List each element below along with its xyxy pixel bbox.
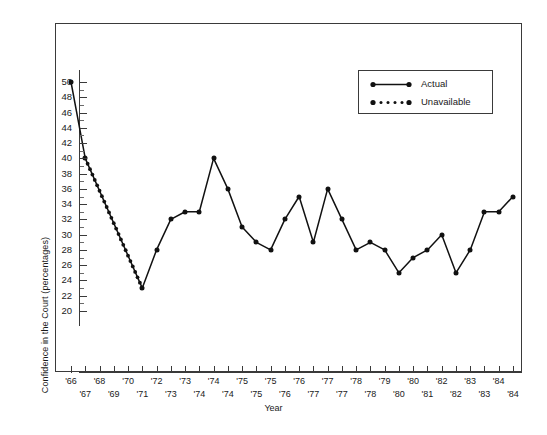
y-axis-tick	[80, 97, 87, 98]
x-axis-tick-label: '84	[493, 377, 505, 386]
x-axis-tick-label: '74	[193, 390, 205, 399]
data-point	[411, 255, 416, 260]
x-axis-tick-label: '81	[422, 390, 434, 399]
data-point	[240, 225, 245, 230]
x-axis-tick-label: '80	[407, 377, 419, 386]
data-point	[453, 270, 458, 275]
data-point	[339, 217, 344, 222]
legend-item-actual: Actual	[359, 76, 494, 92]
x-axis-tick-label: '71	[136, 390, 148, 399]
legend-item-unavailable: Unavailable	[359, 94, 494, 110]
x-axis-tick-label: '66	[65, 377, 77, 386]
y-axis-tick-label: 20	[50, 306, 72, 316]
x-axis-tick	[71, 366, 72, 373]
x-axis-tick-label: '76	[279, 390, 291, 399]
y-axis-tick-label: 40	[50, 153, 72, 163]
x-axis-tick	[242, 366, 243, 373]
data-point	[425, 247, 430, 252]
data-point	[325, 186, 330, 191]
x-axis-tick-label: '82	[450, 390, 462, 399]
x-axis-tick-label: '70	[122, 377, 134, 386]
y-axis-tick	[80, 204, 87, 205]
x-axis-tick	[342, 366, 343, 373]
y-axis-tick	[80, 113, 87, 114]
x-axis-tick	[199, 366, 200, 373]
y-axis-tick	[80, 250, 87, 251]
x-axis-tick	[356, 366, 357, 373]
x-axis-tick-label: '78	[365, 390, 377, 399]
x-axis-tick	[328, 366, 329, 373]
data-point	[282, 217, 287, 222]
x-axis-tick	[171, 366, 172, 373]
y-axis-minor-tick	[80, 120, 84, 121]
data-point	[197, 209, 202, 214]
x-axis-tick-label: '77	[308, 390, 320, 399]
x-axis-tick-label: '73	[179, 377, 191, 386]
x-axis-tick	[513, 366, 514, 373]
x-axis-tick	[228, 366, 229, 373]
x-axis-tick	[470, 366, 471, 373]
y-axis-tick-label: 22	[50, 291, 72, 301]
x-axis-tick	[299, 366, 300, 373]
data-point	[225, 186, 230, 191]
legend-swatch-solid-icon	[369, 81, 413, 88]
x-axis-tick	[313, 366, 314, 373]
x-axis-tick-label: '75	[265, 377, 277, 386]
x-axis-tick	[399, 366, 400, 373]
y-axis-minor-tick	[80, 90, 84, 91]
y-axis-tick-label: 44	[50, 123, 72, 133]
x-axis-tick-label: '82	[436, 377, 448, 386]
y-axis-title-wrapper: Confidence in the Court (percentages)	[22, 110, 36, 320]
x-axis-title: Year	[0, 403, 547, 413]
chart-figure: 50484644424038363432302826242220 Confide…	[0, 0, 547, 435]
y-axis-minor-tick	[80, 181, 84, 182]
x-axis-tick	[442, 366, 443, 373]
x-axis-tick-label: '74	[222, 390, 234, 399]
x-axis-tick	[128, 366, 129, 373]
x-axis-tick	[427, 366, 428, 373]
x-axis-tick	[285, 366, 286, 373]
x-axis-tick	[85, 366, 86, 373]
y-axis-tick	[80, 280, 87, 281]
x-axis-tick-label: '83	[464, 377, 476, 386]
x-axis-tick	[385, 366, 386, 373]
y-axis-tick	[80, 128, 87, 129]
data-point	[69, 80, 74, 85]
y-axis-tick	[80, 265, 87, 266]
x-axis-tick-label: '73	[165, 390, 177, 399]
y-axis-title: Confidence in the Court (percentages)	[40, 215, 50, 415]
x-axis-tick	[484, 366, 485, 373]
x-axis-tick	[413, 366, 414, 373]
data-point	[468, 247, 473, 252]
data-point	[254, 240, 259, 245]
data-point	[183, 209, 188, 214]
x-axis-tick-label: '72	[151, 377, 163, 386]
y-axis-minor-tick	[80, 197, 84, 198]
x-axis-tick-label: '84	[507, 390, 519, 399]
y-axis-tick-label: 28	[50, 245, 72, 255]
x-axis-tick	[271, 366, 272, 373]
y-axis-tick	[80, 143, 87, 144]
data-point	[211, 156, 216, 161]
y-axis-minor-tick	[80, 303, 84, 304]
data-point	[168, 217, 173, 222]
legend-swatch-dotted-icon	[369, 99, 413, 106]
y-axis-tick-labels: 50484644424038363432302826242220	[48, 0, 72, 435]
x-axis-tick	[499, 366, 500, 373]
y-axis-tick	[80, 189, 87, 190]
data-point	[496, 209, 501, 214]
y-axis-tick	[80, 311, 87, 312]
data-point	[439, 232, 444, 237]
y-axis-tick	[80, 82, 87, 83]
x-axis-tick	[214, 366, 215, 373]
data-point	[154, 247, 159, 252]
x-axis-tick-label: '78	[350, 377, 362, 386]
y-axis-tick-label: 38	[50, 169, 72, 179]
y-axis-tick-label: 48	[50, 92, 72, 102]
legend-label-unavailable: Unavailable	[421, 96, 471, 107]
data-point	[354, 247, 359, 252]
y-axis-tick-label: 26	[50, 260, 72, 270]
y-axis-minor-tick	[80, 258, 84, 259]
y-axis-tick	[80, 158, 87, 159]
y-axis-tick	[80, 235, 87, 236]
